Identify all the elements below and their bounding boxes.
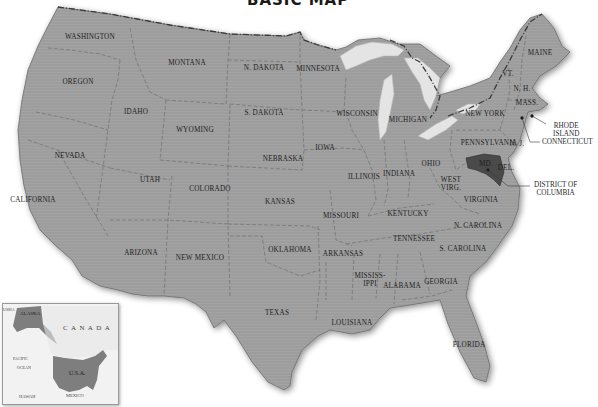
state-label-minnesota: MINNESOTA <box>296 65 340 73</box>
state-label-south-dakota: S. DAKOTA <box>244 109 283 117</box>
state-label-alabama: ALABAMA <box>383 282 421 290</box>
state-label-kentucky: KENTUCKY <box>387 210 428 218</box>
state-label-georgia: GEORGIA <box>424 278 458 286</box>
state-label-wyoming: WYOMING <box>176 126 214 134</box>
inset-label-russia: USSIA <box>3 307 15 312</box>
state-label-maine: MAINE <box>528 49 553 57</box>
state-label-north-dakota: N. DAKOTA <box>244 64 284 72</box>
state-label-idaho: IDAHO <box>124 108 148 116</box>
state-label-new-york: NEW YORK <box>465 110 505 118</box>
inset-label-canada: C A N A D A <box>63 324 111 332</box>
state-label-tennessee: TENNESSEE <box>393 235 435 243</box>
state-label-nebraska: NEBRASKA <box>263 155 303 163</box>
inset-locator-map: USSIA ALASKA C A N A D A U.S.A. PACIFIC … <box>2 303 119 405</box>
state-label-montana: MONTANA <box>168 59 206 67</box>
state-label-vermont: VT. <box>502 70 513 78</box>
state-label-new-jersey: N. J. <box>510 140 524 148</box>
inset-label-usa: U.S.A. <box>69 370 86 376</box>
inset-map-graphic <box>3 304 118 404</box>
state-label-pennsylvania: PENNSYLVANIA <box>461 139 517 147</box>
state-label-washington: WASHINGTON <box>65 33 115 41</box>
state-label-iowa: IOWA <box>315 144 335 152</box>
state-label-wisconsin: WISCONSIN <box>336 110 378 118</box>
state-label-indiana: INDIANA <box>383 170 415 178</box>
inset-label-mexico: MEXICO <box>66 393 84 398</box>
state-label-massachusetts: MASS. <box>516 99 538 107</box>
state-label-kansas: KANSAS <box>265 198 295 206</box>
state-label-oregon: OREGON <box>62 78 93 86</box>
state-label-new-hampshire: N. H. <box>514 85 531 93</box>
state-label-nevada: NEVADA <box>55 152 86 160</box>
state-label-illinois: ILLINOIS <box>348 173 380 181</box>
state-label-west-virginia: WEST VIRG. <box>441 176 461 192</box>
state-label-arizona: ARIZONA <box>124 249 158 257</box>
state-label-utah: UTAH <box>140 176 160 184</box>
state-label-missouri: MISSOURI <box>323 212 359 220</box>
state-label-virginia: VIRGINIA <box>464 196 498 204</box>
state-label-maryland: MD. <box>479 160 493 168</box>
canada-shape <box>43 306 118 358</box>
inset-label-ocean: OCEAN <box>17 365 31 370</box>
state-label-michigan: MICHIGAN <box>389 116 427 124</box>
inset-label-alaska: ALASKA <box>20 311 40 316</box>
inset-label-hawaii: HAWAII <box>19 394 35 399</box>
callout-label-district-of-columbia: DISTRICT OF COLUMBIA <box>534 181 577 197</box>
state-label-mississippi: MISSISS- IPPI <box>354 272 385 288</box>
state-label-ohio: OHIO <box>422 160 441 168</box>
callout-label-rhode-island: RHODE ISLAND <box>553 122 579 138</box>
state-label-colorado: COLORADO <box>189 185 231 193</box>
state-label-south-carolina: S. CAROLINA <box>440 245 487 253</box>
state-label-north-carolina: N. CAROLINA <box>454 222 502 230</box>
inset-label-pacific: PACIFIC <box>13 356 28 361</box>
state-label-louisiana: LOUISIANA <box>332 319 373 327</box>
state-label-new-mexico: NEW MEXICO <box>176 254 224 262</box>
state-label-california: CALIFORNIA <box>10 196 56 204</box>
state-label-arkansas: ARKANSAS <box>323 250 363 258</box>
state-label-florida: FLORIDA <box>453 341 486 349</box>
callout-label-connecticut: CONNECTICUT <box>542 138 593 146</box>
state-label-oklahoma: OKLAHOMA <box>268 246 312 254</box>
state-label-delaware: DEL. <box>498 164 515 172</box>
state-label-texas: TEXAS <box>265 309 289 317</box>
